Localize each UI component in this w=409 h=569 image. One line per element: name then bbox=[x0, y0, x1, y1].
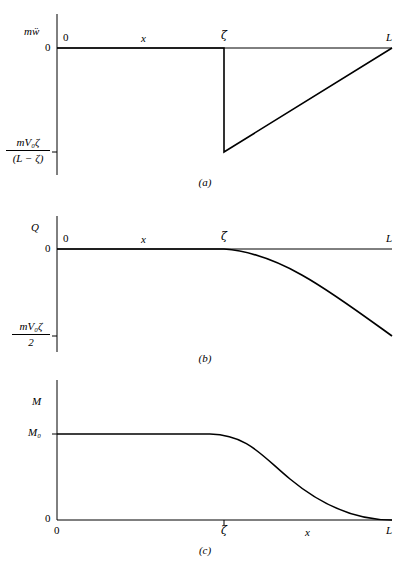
panel-c-y-axis-label: M bbox=[32, 396, 41, 407]
panel-a-y-bottom-numerator: mV₀ζ bbox=[6, 136, 50, 151]
panel-b-y-zero-label: 0 bbox=[45, 243, 51, 254]
panel-c-plot bbox=[0, 374, 409, 569]
panel-a-y-zero-label: 0 bbox=[45, 42, 51, 53]
panel-c-x-tick-x: x bbox=[305, 527, 310, 538]
panel-a-y-bottom-denominator: (L − ζ) bbox=[6, 151, 50, 165]
panel-b: Q 0 0 x ζ L mV₀ζ 2 (b) bbox=[0, 196, 409, 374]
panel-a-x-tick-0: 0 bbox=[63, 32, 69, 43]
panel-b-y-axis-label: Q bbox=[31, 222, 39, 233]
panel-b-caption: (b) bbox=[175, 352, 235, 364]
panel-b-y-bottom-numerator: mV₀ζ bbox=[12, 320, 50, 335]
panel-c-data-curve bbox=[57, 434, 392, 520]
panel-b-y-bottom-denominator: 2 bbox=[12, 335, 50, 349]
panel-c-y-zero-label: 0 bbox=[45, 513, 51, 524]
panel-c-x-tick-zeta: ζ bbox=[221, 525, 227, 536]
beam-response-figure: mẅ 0 0 x ζ L mV₀ζ (L − ζ) (a) Q 0 0 x ζ … bbox=[0, 0, 409, 569]
panel-a: mẅ 0 0 x ζ L mV₀ζ (L − ζ) (a) bbox=[0, 0, 409, 196]
panel-c-x-tick-L: L bbox=[386, 525, 392, 536]
panel-b-x-tick-x: x bbox=[141, 234, 146, 245]
panel-a-y-bottom-label: mV₀ζ (L − ζ) bbox=[6, 136, 50, 164]
panel-c-x-tick-0: 0 bbox=[54, 525, 60, 536]
panel-b-x-tick-0: 0 bbox=[63, 233, 69, 244]
panel-a-data-curve bbox=[57, 48, 392, 152]
panel-b-data-curve bbox=[57, 249, 392, 336]
panel-a-plot bbox=[0, 0, 409, 196]
panel-a-y-axis-label: mẅ bbox=[24, 26, 39, 37]
panel-c: M M₀ 0 0 ζ x L (c) bbox=[0, 374, 409, 569]
panel-b-x-tick-zeta: ζ bbox=[221, 231, 227, 242]
panel-b-x-tick-L: L bbox=[386, 233, 392, 244]
panel-a-x-tick-zeta: ζ bbox=[221, 30, 227, 41]
panel-a-x-tick-L: L bbox=[386, 32, 392, 43]
panel-c-y-top-label: M₀ bbox=[28, 427, 41, 438]
panel-a-caption: (a) bbox=[175, 176, 235, 188]
panel-b-plot bbox=[0, 196, 409, 374]
panel-a-x-tick-x: x bbox=[141, 33, 146, 44]
panel-b-y-bottom-label: mV₀ζ 2 bbox=[12, 320, 50, 348]
panel-c-caption: (c) bbox=[175, 544, 235, 556]
